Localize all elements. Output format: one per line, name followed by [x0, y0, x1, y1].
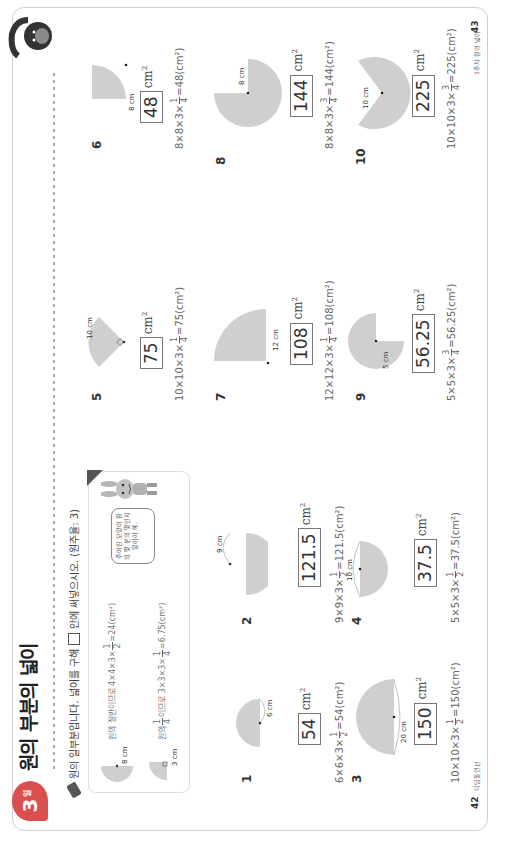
answer-value: 54 [298, 713, 321, 745]
answer-value: 108 [290, 323, 313, 365]
answer-10: 225cm2 [412, 49, 435, 117]
instruction: 원의 일부분입니다. 넓이를 구해 안에 써넣으시오. (원주율: 3) [66, 509, 81, 797]
svg-text:9 cm: 9 cm [216, 535, 224, 553]
calculation: 8×8×3×14=48(cm²) [170, 48, 189, 149]
problem-number: 6 [90, 141, 104, 149]
shape-quarter-circle: 8 cm [82, 55, 138, 115]
example-semicircle: 8 cm [97, 746, 137, 786]
answer-value: 48 [140, 91, 163, 123]
worksheet-page: 3일 원의 부분의 넓이 원의 일부분입니다. 넓이를 구해 안에 써넣으시오.… [0, 0, 517, 845]
calculation: 10×10×3×12=150(cm²) [446, 662, 465, 783]
answer-box-icon [68, 633, 80, 645]
problem-number: 7 [214, 393, 228, 401]
answer-value: 225 [412, 75, 435, 117]
answer-3: 150cm2 [414, 677, 437, 745]
right-footer-label: 3주차 원의 넓이 [472, 31, 481, 75]
problem-number: 8 [214, 157, 228, 165]
svg-text:5 cm: 5 cm [382, 351, 390, 369]
answer-1: 54cm2 [298, 688, 321, 745]
left-footer-label: 디딤돌연산 [472, 761, 481, 791]
answer-value: 75 [140, 337, 163, 369]
svg-text:6 cm: 6 cm [266, 699, 274, 717]
shape-quarter-circle: 10 cm [80, 307, 140, 377]
answer-8: 144cm2 [290, 49, 313, 117]
dotted-divider [52, 71, 56, 771]
shape-three-quarter-circle: 8 cm [208, 53, 288, 133]
answer-4: 37.5cm2 [414, 514, 437, 587]
shape-three-quarter-circle: 10 cm [338, 53, 418, 133]
answer-9: 56.25cm2 [412, 289, 435, 373]
instruction-tail: 안에 써넣으시오. (원주율: 3) [66, 509, 81, 629]
answer-value: 144 [290, 75, 313, 117]
problem-number: 2 [240, 617, 254, 625]
svg-text:8 cm: 8 cm [128, 93, 136, 111]
example-label-2: 3 cm [171, 748, 179, 766]
bunny-icon [101, 474, 159, 504]
answer-7: 108cm2 [290, 297, 313, 365]
svg-text:10 cm: 10 cm [346, 559, 354, 581]
answer-value: 150 [414, 703, 437, 745]
calculation: 8×8×3×34=144(cm²) [320, 41, 339, 149]
answer-value: 37.5 [414, 539, 437, 587]
svg-text:10 cm: 10 cm [86, 317, 94, 339]
shape-semicircle: 10 cm [342, 537, 398, 601]
example-box: 8 cm 원의 절반이므로 4×4×3×12=24(cm²) 3 cm 원의14… [88, 471, 190, 793]
mascot-icon [8, 16, 56, 60]
shape-semicircle: 20 cm [338, 673, 410, 759]
answer-2: 121.5cm2 [298, 503, 321, 587]
calculation: 5×5×3×12=37.5(cm²) [446, 512, 465, 623]
answer-value: 121.5 [298, 528, 321, 587]
example-label-1: 8 cm [121, 746, 129, 764]
problem-number: 5 [90, 393, 104, 401]
answer-6: 48cm2 [140, 66, 163, 123]
badge-number: 3 [18, 799, 42, 813]
left-page-number: 42 [470, 796, 480, 809]
svg-text:20 cm: 20 cm [400, 721, 408, 743]
calculation: 12×12×3×14=108(cm²) [320, 280, 339, 401]
shape-semicircle: 6 cm [228, 693, 278, 753]
day-badge: 3일 [12, 781, 48, 821]
answer-value: 56.25 [412, 314, 435, 373]
shape-quarter-circle: 12 cm [210, 293, 282, 373]
calculation: 5×5×3×34=56.25(cm²) [442, 284, 461, 401]
problem-number: 10 [354, 148, 368, 165]
shape-three-quarter-circle: 5 cm [344, 309, 408, 373]
calculation: 10×10×3×34=225(cm²) [442, 28, 461, 149]
svg-text:8 cm: 8 cm [238, 67, 246, 85]
speech-bubble: 주어진 모양이 원의 몇 분의 몇인지 알아야 해. [111, 508, 155, 564]
problem-number: 3 [350, 775, 364, 783]
svg-text:12 cm: 12 cm [272, 329, 280, 351]
shape-semicircle: 9 cm [212, 529, 268, 599]
problem-number: 4 [350, 617, 364, 625]
problem-number: 1 [240, 775, 254, 783]
answer-5: 75cm2 [140, 312, 163, 369]
right-page-number: 43 [470, 20, 480, 33]
pencil-icon [66, 781, 82, 798]
problem-number: 9 [354, 393, 368, 401]
instruction-text: 원의 일부분입니다. 넓이를 구해 [66, 649, 81, 779]
calculation: 10×10×3×14=75(cm²) [170, 287, 189, 401]
example-line-1: 원의 절반이므로 4×4×3×12=24(cm²) [103, 603, 122, 740]
example-line-2: 원의14이므로 3×3×3×14=6.75(cm²) [153, 603, 172, 740]
svg-text:10 cm: 10 cm [362, 87, 370, 109]
example-quarter-circle: 3 cm [145, 748, 181, 784]
badge-suffix: 일 [21, 790, 32, 797]
page-title: 원의 부분의 넓이 [14, 643, 41, 771]
